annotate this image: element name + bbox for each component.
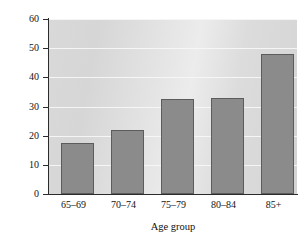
- y-tick-label-50: 50: [0, 43, 39, 53]
- x-axis-line: [48, 194, 298, 195]
- gridline-50: [49, 48, 297, 49]
- y-tick-label-10: 10: [0, 160, 39, 170]
- x-tick-label-85-plus: 85+: [241, 199, 306, 210]
- y-tick-mark-40: [43, 77, 48, 78]
- bar-75-79: [161, 99, 194, 194]
- y-tick-mark-50: [43, 48, 48, 49]
- y-tick-mark-0: [43, 194, 48, 195]
- y-tick-label-60: 60: [0, 14, 39, 24]
- y-tick-mark-10: [43, 165, 48, 166]
- gridline-60: [49, 19, 297, 20]
- y-tick-mark-30: [43, 107, 48, 108]
- gridline-40: [49, 77, 297, 78]
- x-axis-title: Age group: [49, 221, 297, 232]
- y-tick-label-0: 0: [0, 189, 39, 199]
- bar-85-plus: [261, 54, 294, 194]
- bar-70-74: [111, 130, 144, 194]
- y-tick-label-30: 30: [0, 102, 39, 112]
- y-tick-mark-60: [43, 19, 48, 20]
- y-tick-label-40: 40: [0, 72, 39, 82]
- y-tick-mark-20: [43, 136, 48, 137]
- plot-area: [49, 19, 297, 194]
- y-tick-label-20: 20: [0, 131, 39, 141]
- bar-80-84: [211, 98, 244, 194]
- bar-65-69: [61, 143, 94, 194]
- y-axis-line: [48, 18, 49, 195]
- bar-chart-figure: Percentage 60 50 40 30 20 10 0 65–69 70–…: [0, 0, 307, 250]
